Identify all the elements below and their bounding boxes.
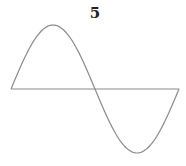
sine-wave-figure: 5 — [0, 0, 186, 166]
sine-wave-diagram — [0, 0, 186, 166]
